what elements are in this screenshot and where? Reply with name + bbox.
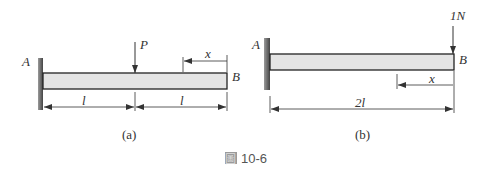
fixed-wall-b	[264, 38, 270, 90]
support-label-a: A	[21, 54, 30, 69]
fixed-wall-a	[38, 58, 43, 110]
sublabel-b: (b)	[355, 127, 370, 142]
diagram-a: A B P x l l (a)	[21, 37, 240, 142]
beam-a	[43, 73, 227, 89]
caption-icon: 圖	[225, 153, 236, 165]
diagram-b: A B 1N x 2l (b)	[251, 8, 467, 142]
load-label-b: 1N	[450, 8, 467, 23]
sublabel-a: (a)	[122, 127, 136, 142]
x-label-a: x	[204, 46, 211, 61]
figure-canvas: A B P x l l (a) A B 1N x 2l (b) 圖 10-6	[0, 0, 489, 176]
load-label-a: P	[139, 37, 148, 52]
support-label-b: A	[251, 37, 260, 52]
span-right-label-a: l	[180, 93, 184, 108]
x-label-b: x	[428, 71, 435, 86]
beam-b	[270, 54, 454, 70]
span-left-label-a: l	[82, 93, 86, 108]
figure-caption: 圖 10-6	[225, 151, 267, 166]
caption-number: 10-6	[241, 151, 267, 166]
span-label-b: 2l	[355, 95, 366, 110]
end-label-a: B	[232, 69, 240, 84]
end-label-b: B	[459, 52, 467, 67]
